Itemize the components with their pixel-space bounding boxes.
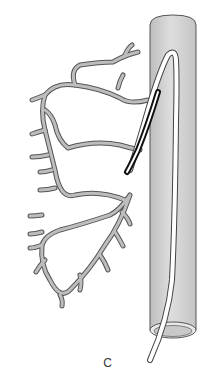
coronary-artery-tree [30,45,148,306]
panel-label: C [0,356,215,370]
illustration [0,0,215,388]
